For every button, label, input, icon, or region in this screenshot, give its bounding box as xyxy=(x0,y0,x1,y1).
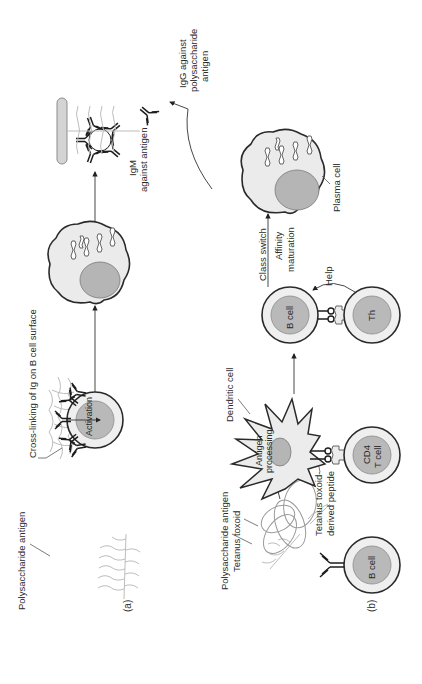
label-activation: Activation xyxy=(84,397,94,436)
label-cd4-1: CD4 xyxy=(361,445,372,464)
label-b-cell-bottom: B cell xyxy=(366,556,377,579)
label-cross-linking: Cross-linking of Ig on B cell surface xyxy=(27,309,38,458)
label-help: Help xyxy=(323,266,334,286)
label-tetanus-toxoid: Tetanus toxoid xyxy=(231,511,242,572)
label-affinity-1: Affinity xyxy=(273,231,284,260)
b-cell-top: B cell xyxy=(262,287,318,343)
plasma-cell-b xyxy=(241,129,324,213)
igm-pentamer xyxy=(76,114,125,165)
label-igg-3: antigen xyxy=(199,51,210,82)
label-cd4-2: T cell xyxy=(372,445,383,468)
arrow-to-igg xyxy=(170,102,212,189)
leader-line xyxy=(38,448,62,458)
label-tetanus-peptide-2: derived peptide xyxy=(325,471,336,536)
plasma-cell-a xyxy=(48,221,130,303)
panel-b: (b) Polysaccharide antigen Tetanus toxoi… xyxy=(219,129,400,612)
leader-line xyxy=(238,399,250,414)
label-polysaccharide-antigen-b: Polysaccharide antigen xyxy=(219,492,230,590)
label-polysaccharide-antigen-a: Polysaccharide antigen xyxy=(16,512,27,610)
label-dendritic-cell: Dendritic cell xyxy=(224,368,235,422)
label-antigen-processing-2: processing xyxy=(264,429,274,473)
panel-a-label: (a) xyxy=(122,600,133,612)
label-th: Th xyxy=(366,310,377,321)
label-plasma-cell: Plasma cell xyxy=(331,163,342,212)
label-igm-2: against antigen xyxy=(138,128,149,192)
label-b-cell-top: B cell xyxy=(284,306,295,329)
immune-response-diagram: (a) Polysaccharide antigen xyxy=(0,0,422,684)
panel-a: (a) Polysaccharide antigen xyxy=(16,29,212,612)
dendritic-cell: Antigen processing xyxy=(232,399,325,499)
leader-line xyxy=(244,519,258,526)
b-cell-bottom: B cell xyxy=(344,537,400,593)
label-class-switch: Class switch xyxy=(257,228,268,281)
th-cell: Th xyxy=(344,287,400,343)
label-igm-1: IgM xyxy=(127,160,138,176)
label-antigen-processing-1: Antigen xyxy=(254,435,264,466)
label-affinity-2: maturation xyxy=(285,227,296,272)
cd4-t-cell: CD4 T cell xyxy=(344,427,400,483)
label-igg-2: polysaccharide xyxy=(188,29,199,92)
leader-line xyxy=(30,544,50,556)
rotated-figure: (a) Polysaccharide antigen xyxy=(16,29,400,612)
polysaccharide-antigen-free xyxy=(98,534,140,599)
label-igg-1: IgG against xyxy=(177,39,188,88)
panel-b-label: (b) xyxy=(366,600,377,612)
surface-ig-bottom xyxy=(320,553,344,577)
label-tetanus-peptide-1: Tetanus toxoid- xyxy=(313,472,324,536)
igg-antibody xyxy=(135,101,159,125)
bacterium xyxy=(57,98,140,164)
help-arrow xyxy=(313,283,355,292)
